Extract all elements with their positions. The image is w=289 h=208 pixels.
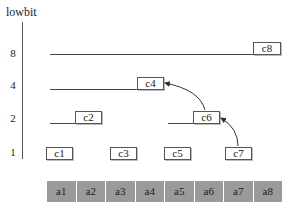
array-cell-a4: a4 xyxy=(136,181,165,202)
array-cell-a1: a1 xyxy=(47,181,76,202)
array-cell-a2: a2 xyxy=(77,181,106,202)
array-cell-a8: a8 xyxy=(254,181,283,202)
arrows-layer xyxy=(0,0,289,208)
array-cell-a6: a6 xyxy=(195,181,224,202)
array-cell-a7: a7 xyxy=(224,181,253,202)
arrow-c6-to-c4 xyxy=(165,83,205,110)
array-cell-a5: a5 xyxy=(165,181,194,202)
array-a: a1 a2 a3 a4 a5 a6 a7 a8 xyxy=(47,181,283,202)
arrow-c7-to-c6 xyxy=(221,118,238,146)
array-cell-a3: a3 xyxy=(106,181,135,202)
